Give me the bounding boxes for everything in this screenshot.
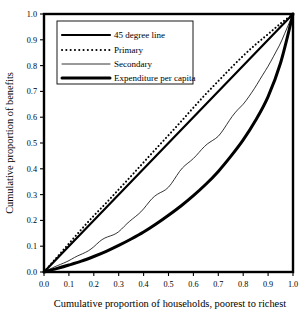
legend-label-4: Expenditure per capita <box>114 73 195 83</box>
x-tick-label: 0.3 <box>114 280 124 289</box>
legend-label-1: 45 degree line <box>114 30 165 40</box>
x-tick-label: 0.2 <box>89 280 99 289</box>
y-tick-label: 0.6 <box>27 113 37 122</box>
x-tick-label: 0.9 <box>263 280 273 289</box>
x-tick-label: 1.0 <box>288 280 298 289</box>
y-tick-label: 0.5 <box>27 139 37 148</box>
legend: 45 degree linePrimarySecondaryExpenditur… <box>57 21 195 84</box>
lorenz-curve-figure: Cumulative proportion of benefits Cumula… <box>0 0 308 326</box>
x-tick-label: 0.1 <box>64 280 74 289</box>
x-tick-label: 0.8 <box>238 280 248 289</box>
chart-canvas: Cumulative proportion of benefits Cumula… <box>0 0 308 326</box>
y-tick-label: 0.4 <box>27 165 37 174</box>
y-tick-label: 0.0 <box>27 268 37 277</box>
x-tick-label: 0.0 <box>39 280 49 289</box>
legend-label-2: Primary <box>114 45 143 55</box>
y-axis-ticks: 0.00.10.20.30.40.50.60.70.80.91.0 <box>27 10 44 277</box>
y-axis-title: Cumulative proportion of benefits <box>4 72 15 214</box>
x-tick-label: 0.5 <box>163 280 173 289</box>
y-tick-label: 1.0 <box>27 10 37 19</box>
y-tick-label: 0.1 <box>27 242 37 251</box>
legend-label-3: Secondary <box>114 59 152 69</box>
x-axis-title: Cumulative proportion of households, poo… <box>54 298 286 309</box>
y-tick-label: 0.3 <box>27 191 37 200</box>
y-tick-label: 0.9 <box>27 36 37 45</box>
x-tick-label: 0.4 <box>138 280 148 289</box>
y-tick-label: 0.8 <box>27 62 37 71</box>
y-tick-label: 0.7 <box>27 87 37 96</box>
x-axis-ticks: 0.00.10.20.30.40.50.60.70.80.91.0 <box>39 272 298 289</box>
x-tick-label: 0.6 <box>188 280 198 289</box>
y-tick-label: 0.2 <box>27 216 37 225</box>
x-tick-label: 0.7 <box>213 280 223 289</box>
